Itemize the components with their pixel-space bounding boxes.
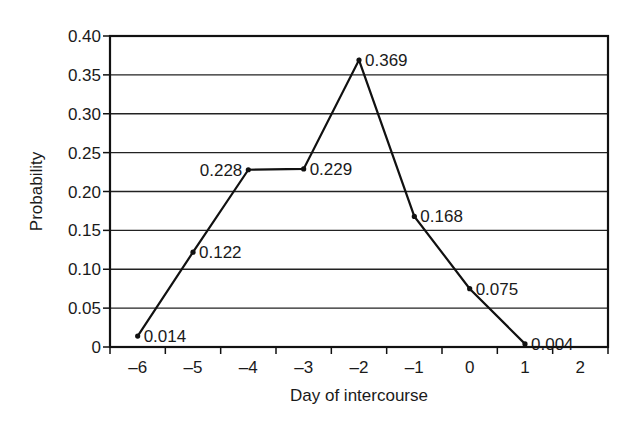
x-tick-label: –6 <box>128 358 147 377</box>
series-line <box>138 60 525 344</box>
data-label: 0.122 <box>199 243 242 262</box>
y-tick-label: 0.40 <box>68 27 101 46</box>
x-tick-label: –5 <box>184 358 203 377</box>
x-tick-label: –2 <box>350 358 369 377</box>
data-point <box>190 250 195 255</box>
line-chart: 00.050.100.150.200.250.300.350.40 –6–5–4… <box>0 0 626 425</box>
x-tick-label: –3 <box>294 358 313 377</box>
data-point <box>246 167 251 172</box>
data-point <box>412 214 417 219</box>
y-tick-label: 0.35 <box>68 66 101 85</box>
x-tick-label: 2 <box>576 358 585 377</box>
data-point <box>467 286 472 291</box>
data-label: 0.075 <box>476 280 519 299</box>
y-axis-title: Probability <box>27 151 46 231</box>
data-point <box>301 166 306 171</box>
data-label: 0.228 <box>200 161 243 180</box>
data-label: 0.229 <box>310 160 353 179</box>
y-tick-label: 0 <box>92 338 101 357</box>
data-label: 0.369 <box>365 51 408 70</box>
x-tick-label: 1 <box>520 358 529 377</box>
x-tick-label: 0 <box>465 358 474 377</box>
series-probability <box>135 58 528 347</box>
y-tick-label: 0.25 <box>68 144 101 163</box>
y-tick-label: 0.20 <box>68 183 101 202</box>
data-label: 0.014 <box>144 327 187 346</box>
data-point <box>522 341 527 346</box>
data-point <box>356 58 361 63</box>
data-label: 0.004 <box>531 335 574 354</box>
y-tick-label: 0.30 <box>68 105 101 124</box>
data-point <box>135 334 140 339</box>
y-axis: 00.050.100.150.200.250.300.350.40 <box>68 27 110 357</box>
data-label: 0.168 <box>420 207 463 226</box>
y-tick-label: 0.05 <box>68 299 101 318</box>
x-tick-label: –4 <box>239 358 258 377</box>
x-axis-title: Day of intercourse <box>290 386 428 405</box>
gridlines <box>110 75 608 308</box>
x-tick-label: –1 <box>405 358 424 377</box>
y-tick-label: 0.10 <box>68 260 101 279</box>
y-tick-label: 0.15 <box>68 221 101 240</box>
